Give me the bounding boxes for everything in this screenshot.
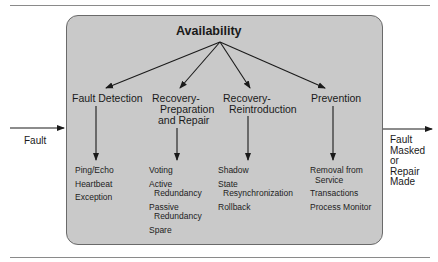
tactic-removal-from-service: Removal from Service [310,166,371,185]
tactic-exception: Exception [75,193,114,203]
tactics-fault-detection: Ping/Echo Heartbeat Exception [75,166,114,203]
fault-input-label: Fault [24,135,46,146]
tactic-spare: Spare [149,226,202,236]
tactic-passive-redundancy: Passive Redundancy [149,203,202,222]
output-label: Fault Masked or Repair Made [390,135,425,188]
header-line: Prevention [311,93,361,104]
tactic-heartbeat: Heartbeat [75,180,114,190]
arrow-to-recovery-preparation [180,42,220,88]
tactic-rollback: Rollback [218,203,293,213]
arrow-to-fault-detection [106,42,220,88]
header-line: Fault Detection [72,93,143,104]
tactic-state-resynchronization: State Resynchronization [218,180,293,199]
connector-arrows [0,0,438,262]
header-recovery-reintroduction: Recovery- Reintroduction [223,93,297,115]
tactic-shadow: Shadow [218,166,293,176]
tactics-recovery-preparation-repair: Voting Active Redundancy Passive Redunda… [149,166,202,235]
tactic-voting: Voting [149,166,202,176]
tactics-prevention: Removal from Service Transactions Proces… [310,166,371,212]
diagram-title: Availability [176,24,242,38]
tactics-recovery-reintroduction: Shadow State Resynchronization Rollback [218,166,293,212]
header-recovery-preparation-repair: Recovery- Preparation and Repair [152,93,214,126]
header-line: and Repair [152,115,214,126]
header-fault-detection: Fault Detection [72,93,143,104]
header-prevention: Prevention [311,93,361,104]
tactic-process-monitor: Process Monitor [310,203,371,213]
output-label-line: Fault [390,135,425,146]
tactic-ping-echo: Ping/Echo [75,166,114,176]
output-label-line: or [390,156,425,167]
arrow-to-prevention [220,42,325,88]
output-label-line: Made [390,177,425,188]
tactic-transactions: Transactions [310,189,371,199]
header-line: Reintroduction [223,104,297,115]
tactic-active-redundancy: Active Redundancy [149,180,202,199]
